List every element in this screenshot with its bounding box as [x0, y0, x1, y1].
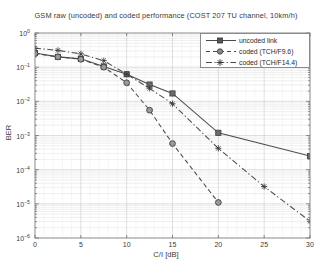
legend-symbol-dashdot-star [205, 57, 237, 68]
data-point-square [216, 130, 221, 135]
legend-label: coded (TCH/F9.6) [239, 46, 293, 57]
data-point-star [78, 51, 84, 57]
x-tick-label: 0 [27, 241, 43, 248]
y-tick-label: 10−4 [8, 165, 30, 174]
x-tick-label: 30 [302, 241, 318, 248]
x-tick-label: 25 [256, 241, 272, 248]
data-point-star [261, 183, 267, 189]
data-point-star [55, 47, 61, 53]
y-axis-label: BER [4, 113, 13, 153]
x-tick-label: 5 [73, 241, 89, 248]
legend-symbol-dashed-circle [205, 46, 237, 57]
y-tick-label: 10−2 [8, 96, 30, 105]
x-axis-label: C/I [dB] [0, 250, 332, 259]
legend-box: uncoded link coded (TCH/F9.6) coded (TCH… [200, 33, 310, 68]
data-point-star [101, 58, 107, 64]
legend-item-coded-tch-f96[interactable]: coded (TCH/F9.6) [201, 46, 311, 57]
legend-label: coded (TCH/F14.4) [239, 57, 297, 68]
legend-item-uncoded-link[interactable]: uncoded link [201, 35, 311, 46]
data-point-star [215, 145, 221, 151]
data-point-star [146, 85, 152, 91]
y-tick-label: 10−5 [8, 199, 30, 208]
data-point-circle [124, 80, 130, 86]
x-tick-label: 15 [165, 241, 181, 248]
legend-label: uncoded link [239, 35, 277, 46]
legend-symbol-solid-square [205, 35, 237, 46]
data-point-square [170, 91, 175, 96]
data-point-circle [170, 141, 176, 147]
data-point-star [124, 71, 130, 77]
data-point-circle [78, 56, 84, 62]
data-point-circle [147, 107, 153, 113]
data-point-circle [101, 64, 107, 70]
y-tick-label: 10−1 [8, 62, 30, 71]
y-tick-label: 100 [8, 28, 30, 37]
data-point-star [169, 101, 175, 107]
x-tick-label: 20 [210, 241, 226, 248]
data-point-circle [55, 54, 61, 60]
data-point-circle [215, 200, 221, 206]
legend-item-coded-tch-f144[interactable]: coded (TCH/F14.4) [201, 57, 311, 68]
x-tick-label: 10 [119, 241, 135, 248]
